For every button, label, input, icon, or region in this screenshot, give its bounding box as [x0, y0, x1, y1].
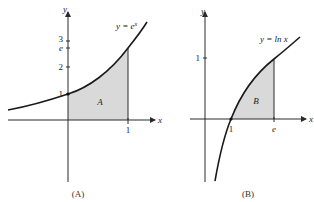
- x-tick-label-e-b: e: [272, 124, 276, 134]
- function-label-b: y = ln x: [259, 34, 288, 44]
- caption-a: (A): [72, 189, 85, 199]
- function-label-a: y = ex: [115, 21, 138, 31]
- x-axis-label-a: x: [157, 115, 162, 125]
- caption-b: (B): [242, 189, 254, 199]
- y-tick-label-2-a: 2: [59, 62, 64, 72]
- shaded-region-b: [231, 59, 274, 119]
- x-axis-label-b: x: [308, 114, 313, 124]
- y-tick-label-3-a: 3: [59, 34, 64, 44]
- y-tick-label-1-a: 1: [59, 89, 64, 99]
- y-axis-label-a: y: [62, 4, 67, 14]
- x-tick-label-1-a: 1: [126, 125, 131, 135]
- region-label-a: A: [96, 97, 103, 107]
- region-label-b: B: [253, 96, 259, 106]
- x-tick-label-1-b: 1: [229, 124, 234, 134]
- y-tick-label-e-a: e: [59, 43, 63, 53]
- y-tick-label-1-b: 1: [196, 53, 201, 63]
- panel-b: y x 1 1 e y = ln x B (B): [190, 6, 313, 199]
- point-0-1: [66, 92, 69, 95]
- point-1-0: [229, 117, 232, 120]
- figure: y x 1 2 e 3 1 y = ex A (A) y x 1 1 e y =…: [0, 0, 314, 202]
- panel-a: y x 1 2 e 3 1 y = ex A (A): [8, 4, 162, 199]
- y-axis-label-b: y: [200, 6, 205, 16]
